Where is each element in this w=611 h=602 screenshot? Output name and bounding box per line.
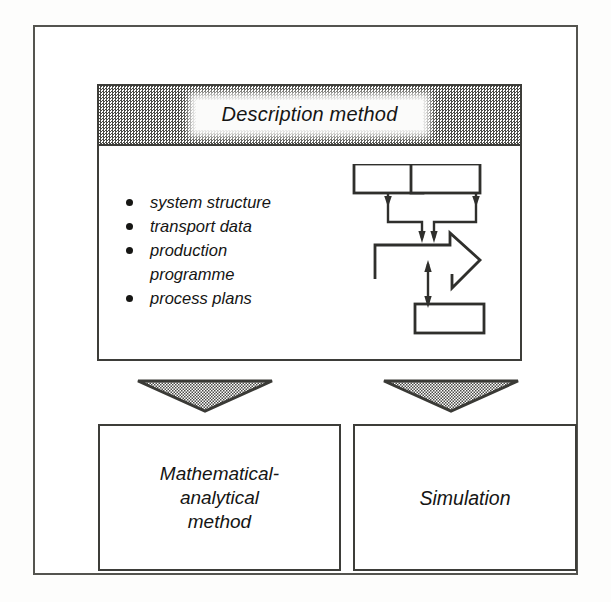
list-item-label: programme xyxy=(150,265,234,283)
list-item-label: process plans xyxy=(150,289,252,307)
schematic-link-left xyxy=(388,193,422,238)
down-triangle-icon xyxy=(382,378,520,413)
arrowhead-into-block-left xyxy=(418,231,425,243)
list-item-continuation: programme xyxy=(121,263,336,286)
system-schematic-svg xyxy=(346,164,518,354)
mathematical-analytical-method-box: Mathematical- analytical method xyxy=(98,424,341,571)
list-item: production xyxy=(121,239,336,262)
arrow-to-simulation xyxy=(382,378,520,413)
simulation-label: Simulation xyxy=(419,486,510,510)
arrowhead-left-down xyxy=(384,196,392,207)
list-item-label: production xyxy=(150,241,227,259)
list-item: system structure xyxy=(121,191,336,214)
description-bullet-list: system structure transport data producti… xyxy=(121,191,336,311)
mathematical-analytical-method-label: Mathematical- analytical method xyxy=(160,462,279,534)
list-item-label: system structure xyxy=(150,193,271,211)
simulation-box: Simulation xyxy=(353,424,577,571)
list-item-label: transport data xyxy=(150,217,252,235)
list-item: transport data xyxy=(121,215,336,238)
bullet-dot-icon xyxy=(126,247,133,254)
schematic-link-right xyxy=(434,193,476,238)
arrowhead-bottom-up xyxy=(424,260,431,272)
schematic-box-top-right xyxy=(411,164,480,193)
description-method-title: Description method xyxy=(196,100,424,130)
system-schematic xyxy=(346,164,518,354)
arrowhead-into-block-right xyxy=(430,231,437,243)
arrow-to-mathematical xyxy=(136,378,274,413)
bullet-dot-icon xyxy=(126,295,133,302)
bullet-dot-icon xyxy=(126,223,133,230)
description-method-panel: Description method system structure tran… xyxy=(97,84,522,361)
figure-canvas: Description method system structure tran… xyxy=(0,0,611,602)
arrowhead-right-down xyxy=(472,196,480,207)
bullet-dot-icon xyxy=(126,199,133,206)
schematic-box-bottom xyxy=(415,304,484,333)
list-item: process plans xyxy=(121,287,336,310)
description-method-header: Description method xyxy=(99,86,520,146)
down-triangle-icon xyxy=(136,378,274,413)
figure-outer-frame: Description method system structure tran… xyxy=(33,25,578,575)
